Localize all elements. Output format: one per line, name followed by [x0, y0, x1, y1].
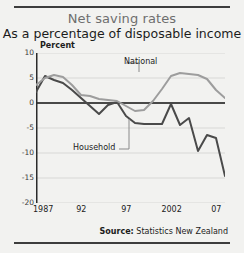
x-tick-label: 97 — [121, 205, 131, 214]
y-axis-unit-label: Percent — [40, 41, 75, 50]
bottom-divider — [14, 242, 230, 244]
chart-svg — [36, 53, 225, 203]
x-tick-label: 2002 — [161, 205, 181, 214]
y-tick-label: -10 — [12, 148, 34, 157]
series-line-national — [36, 73, 225, 111]
y-tick-label: -15 — [12, 173, 34, 182]
plot-area — [36, 53, 225, 203]
y-axis-tick-labels: 1050-5-10-15-20 — [10, 53, 34, 203]
series-label-national: National — [124, 57, 157, 66]
source-label: Source: — [100, 227, 134, 236]
y-tick-label: 10 — [12, 48, 34, 57]
y-tick-label: 5 — [12, 73, 34, 82]
data-series — [36, 73, 225, 176]
leader-line — [119, 119, 129, 149]
source-note: Source: Statistics New Zealand — [100, 227, 229, 236]
x-tick-label: 92 — [76, 205, 86, 214]
annotation-leader-lines — [119, 63, 139, 149]
source-value: Statistics New Zealand — [136, 227, 228, 236]
series-label-household: Household — [73, 143, 115, 152]
chart-subtitle: As a percentage of disposable income — [0, 26, 244, 41]
series-line-household — [36, 76, 225, 176]
top-divider — [14, 6, 230, 8]
x-tick-label: 1987 — [33, 205, 53, 214]
page-title: Net saving rates — [0, 11, 244, 26]
y-tick-label: -5 — [12, 123, 34, 132]
x-tick-label: 07 — [211, 205, 221, 214]
x-axis-tick-labels: 19879297200207 — [0, 205, 244, 217]
y-tick-label: 0 — [12, 98, 34, 107]
chart-card: Net saving rates As a percentage of disp… — [0, 0, 244, 253]
